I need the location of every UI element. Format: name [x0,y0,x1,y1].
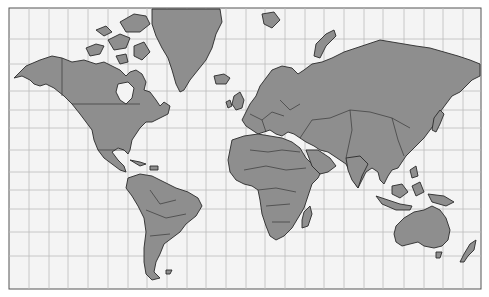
map-canvas [0,0,489,297]
world-map [0,0,489,297]
